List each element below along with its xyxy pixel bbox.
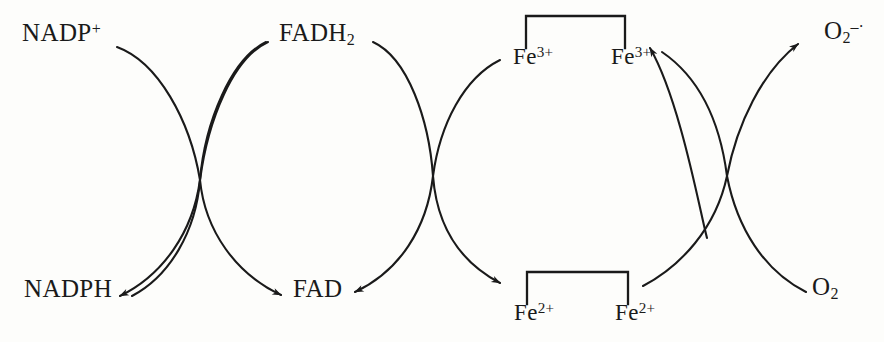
- curve-nadp-segment: [117, 47, 200, 180]
- label-fad: FAD: [293, 276, 342, 301]
- label-fe3-left-text: Fe: [513, 44, 537, 69]
- label-fe2-left: Fe2+: [514, 300, 554, 324]
- label-nadp-plus-text: NADP: [22, 19, 92, 46]
- label-fadh2: FADH2: [279, 20, 355, 48]
- label-fe3-right: Fe3+: [611, 44, 651, 68]
- arrow-fe-to-fad: [355, 60, 500, 292]
- label-superoxide-text: O: [824, 17, 842, 44]
- curve-to-o2: [727, 176, 806, 292]
- arrow-to-fad-left: [200, 180, 281, 295]
- label-fadh2-subscript: 2: [347, 31, 355, 48]
- label-fe2-left-superscript: 2+: [538, 299, 554, 316]
- label-fe2-left-text: Fe: [514, 300, 538, 325]
- label-superoxide-superscript: –·: [850, 18, 863, 35]
- label-nadp-plus: NADP+: [22, 20, 101, 45]
- label-fe2-right-text: Fe: [615, 300, 639, 325]
- diagram-canvas: NADP+ FADH2 Fe3+ Fe3+ O2–· NADPH FAD Fe2…: [0, 0, 884, 342]
- label-nadp-plus-superscript: +: [92, 20, 101, 37]
- arrow-fe2-to-fe3: [650, 48, 707, 238]
- label-fe2-right: Fe2+: [615, 300, 655, 324]
- arrow-fadh2-to-nadp: [120, 42, 268, 296]
- label-nadph: NADPH: [24, 276, 112, 301]
- curve-right-upper: [662, 52, 727, 176]
- label-superoxide: O2–·: [824, 18, 864, 46]
- label-fe3-right-superscript: 3+: [635, 43, 651, 60]
- label-fe3-left-superscript: 3+: [537, 43, 553, 60]
- arrow-to-superoxide: [643, 44, 798, 286]
- label-o2-subscript: 2: [830, 285, 838, 302]
- label-fadh2-text: FADH: [279, 19, 347, 46]
- arrow-fadh2-to-fe3: [373, 42, 500, 283]
- label-fe3-right-text: Fe: [611, 44, 635, 69]
- label-fe3-left: Fe3+: [513, 44, 553, 68]
- label-o2-text: O: [812, 273, 830, 300]
- label-fe2-right-superscript: 2+: [639, 299, 655, 316]
- label-o2: O2: [812, 274, 838, 302]
- reaction-scheme-svg: [0, 0, 884, 342]
